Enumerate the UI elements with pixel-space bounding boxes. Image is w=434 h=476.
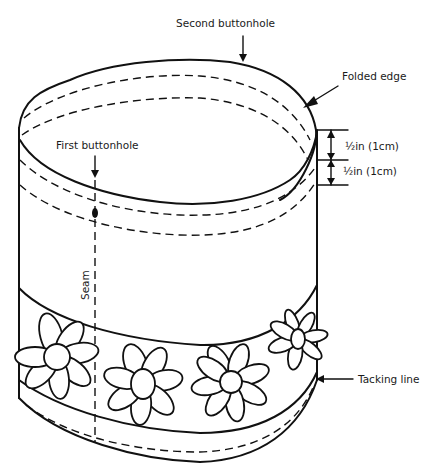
- stitch-line-front-1: [20, 160, 317, 215]
- stitch-line-front-2: [20, 180, 317, 235]
- label-folded-edge: Folded edge: [342, 70, 406, 82]
- arrow-folded-edge: [303, 86, 338, 108]
- arrow-tacking-line: [316, 375, 353, 383]
- first-buttonhole-mark: [92, 208, 98, 218]
- flower-1: [15, 311, 100, 400]
- flower-4: [266, 308, 328, 371]
- flower-3: [190, 341, 272, 423]
- label-half-inch-2: ½in (1cm): [343, 165, 397, 177]
- label-first-buttonhole: First buttonhole: [56, 139, 139, 151]
- label-second-buttonhole: Second buttonhole: [176, 17, 275, 29]
- label-tacking-line: Tacking line: [357, 373, 420, 385]
- flower-2: [102, 341, 184, 426]
- arrow-second-buttonhole: [239, 36, 247, 62]
- label-seam: Seam: [79, 270, 91, 300]
- cylinder-diagram: Second buttonhole Folded edge First butt…: [0, 0, 434, 476]
- arrow-first-buttonhole: [91, 156, 99, 178]
- top-rim-outer: [19, 60, 316, 200]
- stitch-line-back-1: [24, 75, 310, 140]
- label-half-inch-1: ½in (1cm): [345, 140, 399, 152]
